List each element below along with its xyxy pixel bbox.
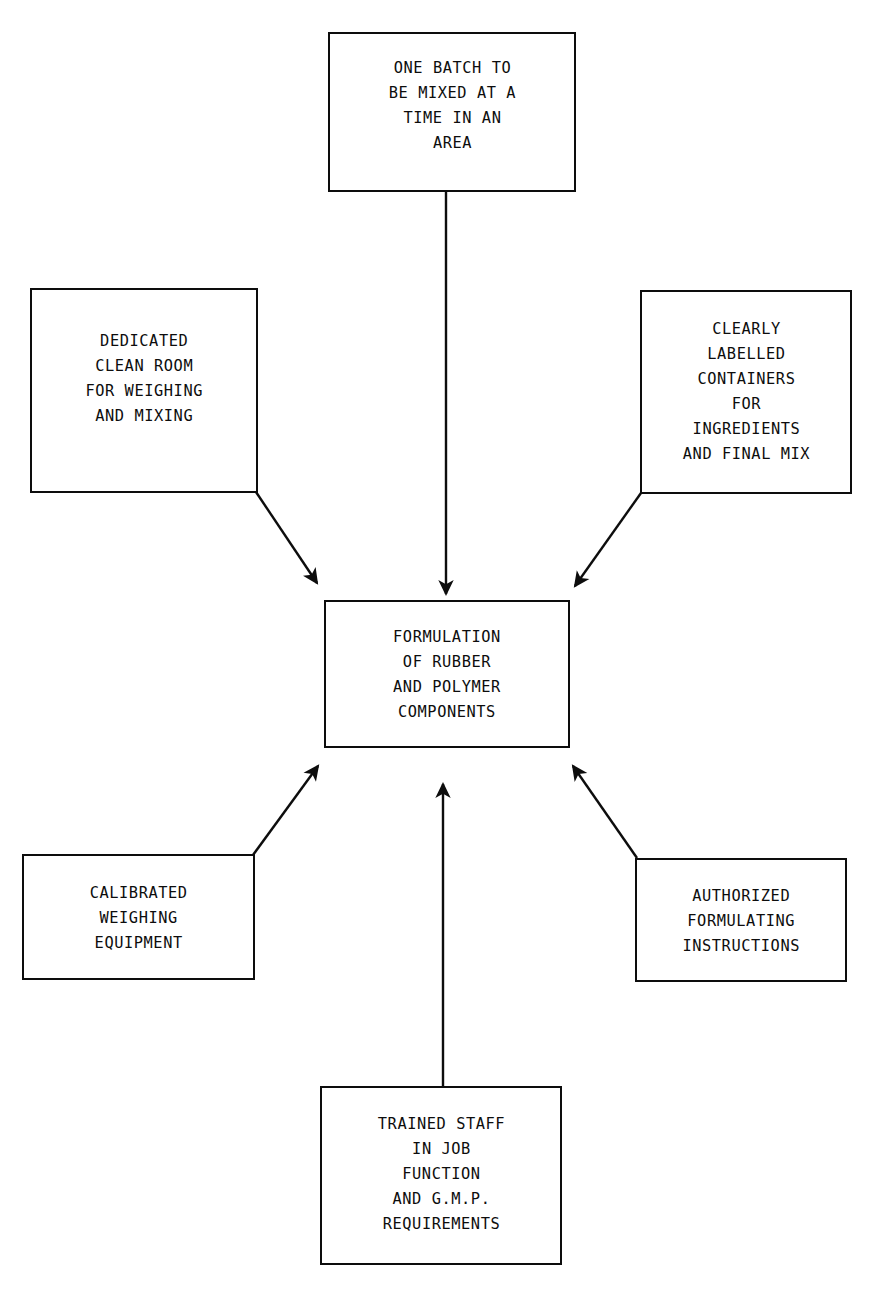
node-bottom-label: TRAINED STAFF IN JOB FUNCTION AND G.M.P.…	[377, 1111, 504, 1236]
node-bottomright-label: AUTHORIZED FORMULATING INSTRUCTIONS	[682, 883, 800, 958]
node-dedicated-clean-room: DEDICATED CLEAN ROOM FOR WEIGHING AND MI…	[30, 288, 258, 493]
node-one-batch-at-a-time: ONE BATCH TO BE MIXED AT A TIME IN AN AR…	[328, 32, 576, 192]
node-clearly-labelled-containers: CLEARLY LABELLED CONTAINERS FOR INGREDIE…	[640, 290, 852, 494]
node-calibrated-weighing-equipment: CALIBRATED WEIGHING EQUIPMENT	[22, 854, 255, 980]
node-trained-staff-gmp-requirements: TRAINED STAFF IN JOB FUNCTION AND G.M.P.…	[320, 1086, 562, 1265]
node-authorized-formulating-instructions: AUTHORIZED FORMULATING INSTRUCTIONS	[635, 858, 847, 982]
diagram-canvas: ONE BATCH TO BE MIXED AT A TIME IN AN AR…	[0, 0, 872, 1289]
node-formulation-of-rubber-and-polymer-components: FORMULATION OF RUBBER AND POLYMER COMPON…	[324, 600, 570, 748]
node-topright-label: CLEARLY LABELLED CONTAINERS FOR INGREDIE…	[682, 316, 809, 466]
edge-topleft-to-center	[256, 492, 317, 583]
edge-bottomright-to-center	[573, 766, 637, 858]
edge-topright-to-center	[575, 493, 641, 586]
node-center-label: FORMULATION OF RUBBER AND POLYMER COMPON…	[393, 624, 501, 724]
node-bottomleft-label: CALIBRATED WEIGHING EQUIPMENT	[90, 880, 188, 955]
edge-bottomleft-to-center	[253, 766, 318, 855]
node-top-label: ONE BATCH TO BE MIXED AT A TIME IN AN AR…	[388, 55, 515, 155]
node-topleft-label: DEDICATED CLEAN ROOM FOR WEIGHING AND MI…	[85, 328, 203, 428]
